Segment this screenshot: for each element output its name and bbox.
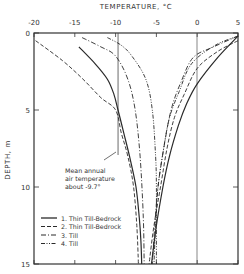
y-axis-title: DEPTH, m: [4, 140, 12, 180]
x-tick-label: -15: [69, 19, 80, 27]
curve-4-winter: [107, 38, 156, 264]
annotation-line-3: about -9.7°: [65, 183, 101, 190]
legend-label: 4. Till: [61, 240, 78, 247]
x-tick-label: -20: [28, 19, 39, 27]
x-tick-label: -5: [153, 19, 160, 27]
x-tick-label: 0: [195, 19, 199, 27]
x-tick-label: -10: [110, 19, 121, 27]
y-tick-label: 10: [21, 184, 30, 192]
legend: 1. Thin Till-Bedrock2. Thin Till-Bedrock…: [41, 215, 121, 248]
annotation-line-2: air temperature: [65, 175, 115, 183]
y-tick-label: 0: [26, 30, 30, 38]
curve-1-summer: [152, 36, 239, 264]
x-tick-label: 5: [236, 19, 240, 27]
curve-3-summer: [152, 36, 238, 264]
y-tick-label: 5: [26, 107, 30, 115]
y-tick-label: 15: [21, 261, 30, 269]
annotation-leader: [104, 152, 116, 160]
y-tick-labels: 051015: [21, 30, 30, 269]
legend-label: 3. Till: [61, 232, 78, 239]
x-tick-labels: -20-15-10-505: [28, 19, 240, 27]
curve-2-winter: [36, 41, 139, 264]
legend-label: 2. Thin Till-Bedrock: [61, 223, 121, 230]
curve-3-winter: [82, 38, 144, 264]
annotation-line-1: Mean annual: [65, 167, 106, 174]
ground-temperature-chart: TEMPERATURE, °C DEPTH, m -20-15-10-505 0…: [0, 0, 244, 274]
annotation: Mean annual air temperature about -9.7°: [65, 152, 116, 190]
x-axis-title: TEMPERATURE, °C: [99, 3, 173, 11]
curve-2-summer: [149, 41, 238, 264]
legend-label: 1. Thin Till-Bedrock: [61, 215, 121, 222]
